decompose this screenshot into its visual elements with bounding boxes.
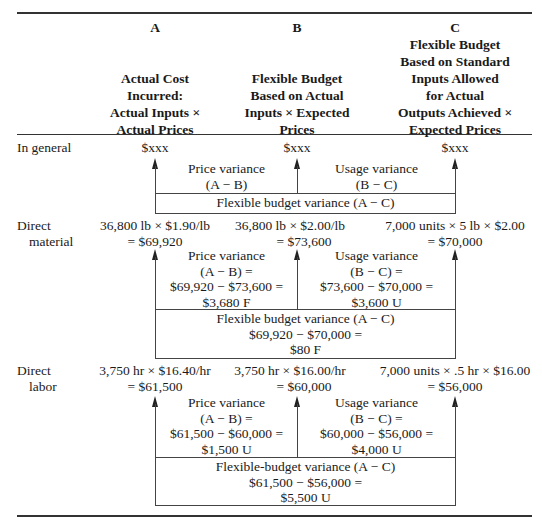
column-letter: A bbox=[95, 19, 215, 36]
price-variance-cell: Price variance (A − B) bbox=[156, 161, 297, 192]
price-variance-cell: Price variance (A − B) = $69,920 − $73,6… bbox=[156, 248, 297, 310]
usage-variance-cell: Usage variance (B − C) bbox=[298, 161, 455, 192]
value-c: 7,000 units × 5 lb × $2.00 = $70,000 bbox=[370, 218, 540, 250]
value-b: 36,800 lb × $2.00/lb = $73,600 bbox=[225, 218, 355, 250]
usage-variance-cell: Usage variance (B − C) = $73,600 − $70,0… bbox=[298, 248, 455, 310]
value-a: 3,750 hr × $16.40/hr = $61,500 bbox=[90, 363, 220, 395]
usage-variance-cell: Usage variance (B − C) = $60,000 − $56,0… bbox=[298, 395, 455, 457]
bottom-rule bbox=[17, 515, 532, 517]
value-c: $xxx bbox=[415, 140, 495, 156]
value-a: $xxx bbox=[115, 140, 195, 156]
price-variance-cell: Price variance (A − B) = $61,500 − $60,0… bbox=[156, 395, 297, 457]
divider bbox=[155, 193, 456, 194]
top-rule bbox=[17, 12, 532, 14]
line-c bbox=[455, 404, 456, 505]
column-header-c: C Flexible Budget Based on Standard Inpu… bbox=[370, 19, 540, 138]
row-label-direct-material: Direct material bbox=[17, 218, 73, 250]
column-header-b: B Flexible Budget Based on Actual Inputs… bbox=[222, 19, 372, 138]
value-b: 3,750 hr × $16.00/hr = $60,000 bbox=[225, 363, 355, 395]
column-letter: B bbox=[222, 19, 372, 36]
row-label-direct-labor: Direct labor bbox=[17, 363, 57, 395]
row-label-in-general: In general bbox=[17, 140, 71, 156]
line-c bbox=[455, 257, 456, 358]
value-a: 36,800 lb × $1.90/lb = $69,920 bbox=[90, 218, 220, 250]
column-header-a: A Actual Cost Incurred: Actual Inputs × … bbox=[95, 19, 215, 138]
divider bbox=[155, 457, 456, 458]
value-c: 7,000 units × .5 hr × $16.00 = $56,000 bbox=[365, 363, 542, 395]
line-c bbox=[455, 166, 456, 213]
box-bottom bbox=[155, 358, 456, 359]
value-b: $xxx bbox=[257, 140, 337, 156]
flex-variance-cell: Flexible-budget variance (A − C) $61,500… bbox=[156, 459, 455, 506]
column-letter: C bbox=[370, 19, 540, 36]
flex-variance-cell: Flexible budget variance (A − C) bbox=[156, 195, 455, 211]
box-bottom bbox=[155, 213, 456, 214]
flex-variance-cell: Flexible budget variance (A − C) $69,920… bbox=[156, 311, 455, 358]
